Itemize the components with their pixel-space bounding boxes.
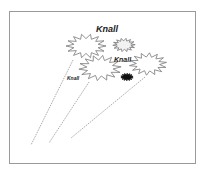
burst-icon-5 [121, 73, 133, 80]
burst-icon-4 [130, 53, 167, 75]
burst-icon-1 [66, 34, 106, 57]
knall-label-1: Knall [96, 24, 118, 34]
knall-label-3: Knall [67, 75, 79, 81]
rocket-trail-3 [71, 77, 145, 138]
knall-label-2: Knall [114, 56, 131, 63]
burst-icon-2 [113, 38, 135, 51]
rocket-trail-2 [49, 82, 89, 143]
rocket-trail-1 [31, 60, 73, 145]
